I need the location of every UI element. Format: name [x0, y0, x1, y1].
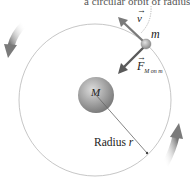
velocity-label: → v	[137, 12, 142, 24]
velocity-vector	[124, 23, 143, 41]
radius-text: Radius	[94, 136, 129, 148]
small-mass-label: m	[151, 27, 160, 42]
orbit-diagram: a circular orbit of radius r → v m → FM …	[0, 0, 190, 177]
vector-arrow-glyph: →	[137, 52, 146, 62]
radius-symbol: r	[129, 136, 133, 148]
radius-label: Radius r	[94, 136, 133, 148]
vector-arrow-glyph: →	[137, 5, 146, 15]
curved-arrow-counterclockwise-icon	[4, 24, 24, 58]
force-label: → FM on m	[137, 59, 163, 74]
radius-endpoint	[146, 152, 148, 154]
large-mass-label: M	[91, 86, 100, 98]
curved-arrow-counterclockwise-icon	[165, 123, 183, 165]
force-subscript: M on m	[144, 68, 162, 74]
small-mass-sphere	[141, 39, 151, 49]
